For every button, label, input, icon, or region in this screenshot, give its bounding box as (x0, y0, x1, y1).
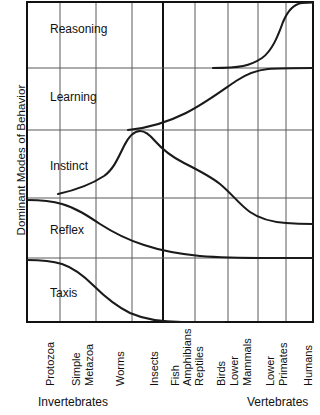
x-tick-primates: Primates (277, 296, 290, 386)
x-tick-birds: Birds (215, 296, 228, 386)
x-tick-reptiles: Reptiles (193, 296, 206, 386)
x-tick-worms: Worms (114, 296, 127, 386)
x-tick-simple: Simple (70, 296, 83, 386)
x-tick-metazoa: Metazoa (83, 296, 96, 386)
band-label-reasoning: Reasoning (50, 22, 107, 36)
x-tick-humans: Humans (302, 296, 315, 386)
band-label-learning: Learning (50, 90, 97, 104)
figure-container: Dominant Modes of Behavior Reasoning Lea… (0, 0, 320, 415)
band-label-reflex: Reflex (50, 223, 84, 237)
x-tick-protozoa: Protozoa (44, 296, 57, 386)
x-tick-insects: Insects (148, 296, 161, 386)
x-tick-mammals: Mammals (241, 296, 254, 386)
x-tick-lower-primates-lower: Lower (264, 296, 277, 386)
group-label-vertebrates: Vertebrates (247, 395, 308, 409)
x-tick-lower-mammals-lower: Lower (228, 296, 241, 386)
group-label-invertebrates: Invertebrates (38, 395, 108, 409)
band-label-instinct: Instinct (50, 159, 88, 173)
